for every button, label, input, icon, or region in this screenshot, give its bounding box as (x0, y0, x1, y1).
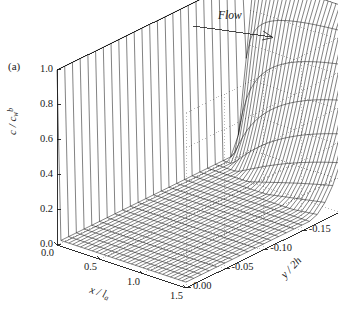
z-tick-label: 0.2 (40, 203, 53, 214)
z-tick-label: 1.0 (40, 63, 53, 74)
y-tick-label: -0.05 (232, 261, 254, 272)
z-tick-label: 0.8 (40, 98, 53, 109)
axis-grid (57, 0, 338, 288)
y-tick-label: -0.10 (270, 242, 292, 253)
z-tick-label: 0.4 (40, 168, 53, 179)
x-tick-label: 1.0 (127, 276, 140, 287)
y-tick-label: 0.00 (193, 280, 211, 291)
x-tick-label: 1.5 (170, 290, 183, 301)
arrow-right-icon (193, 26, 273, 40)
x-tick-label: 0.0 (41, 247, 54, 258)
z-tick-label: 0.6 (40, 133, 53, 144)
flow-annotation-label: Flow (218, 9, 242, 21)
panel-label: (a) (8, 60, 20, 72)
z-axis-label: c / cwb (6, 108, 20, 135)
figure-panel: (a) Flow c / cwb x / la y / 2h 0.00.20.4… (0, 0, 338, 318)
y-tick-label: -0.15 (309, 223, 331, 234)
x-tick-label: 0.5 (84, 261, 97, 272)
concentration-surface-mesh (57, 0, 338, 282)
